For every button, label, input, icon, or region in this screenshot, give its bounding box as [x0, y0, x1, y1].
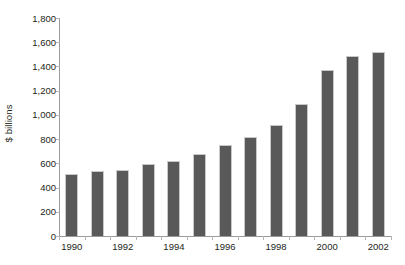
- y-axis-tick-label: 200: [14, 207, 56, 216]
- y-axis-tick-label: 1,200: [14, 86, 56, 95]
- y-axis-tick-mark: [56, 115, 60, 116]
- bar: [346, 56, 359, 236]
- bar: [193, 154, 206, 236]
- bar: [244, 137, 257, 236]
- y-axis-tick-label: 1,600: [14, 38, 56, 47]
- y-axis-tick-mark: [56, 91, 60, 92]
- x-axis-tick-mark: [110, 236, 111, 240]
- x-axis-tick-mark: [212, 236, 213, 240]
- bar-chart: $ billions 02004006008001,0001,2001,4001…: [0, 0, 405, 265]
- x-axis-tick-mark: [314, 236, 315, 240]
- y-axis-tick-label: 0: [14, 232, 56, 241]
- bar: [116, 170, 129, 236]
- y-axis-tick-label: 1,800: [14, 14, 56, 23]
- y-axis-tick-labels: 02004006008001,0001,2001,4001,6001,800: [14, 0, 56, 265]
- x-axis-tick-label: 1998: [256, 241, 296, 252]
- bar: [167, 161, 180, 236]
- x-axis-tick-label: 1992: [103, 241, 143, 252]
- y-axis-tick-mark: [56, 139, 60, 140]
- y-axis-tick-label: 400: [14, 183, 56, 192]
- x-axis-tick-mark: [161, 236, 162, 240]
- y-axis-tick-label: 800: [14, 135, 56, 144]
- bar: [91, 171, 104, 236]
- x-axis-tick-label: 1990: [52, 241, 92, 252]
- x-axis-tick-mark: [136, 236, 137, 240]
- y-axis-tick-mark: [56, 163, 60, 164]
- x-axis-tick-mark: [59, 236, 60, 240]
- y-axis-tick-label: 1,000: [14, 110, 56, 119]
- x-axis-line: [59, 236, 392, 237]
- x-axis-tick-mark: [85, 236, 86, 240]
- x-axis-tick-label: 1994: [154, 241, 194, 252]
- y-axis-label-text: $ billions: [3, 83, 14, 165]
- y-axis-tick-mark: [56, 212, 60, 213]
- x-axis-tick-mark: [263, 236, 264, 240]
- x-axis-tick-label: 2000: [307, 241, 347, 252]
- y-axis-tick-mark: [56, 66, 60, 67]
- bar: [219, 145, 232, 236]
- plot-area: [59, 18, 391, 236]
- x-axis-tick-mark: [238, 236, 239, 240]
- bar: [65, 174, 78, 236]
- x-axis-tick-mark: [340, 236, 341, 240]
- x-axis-tick-mark: [289, 236, 290, 240]
- y-axis-tick-mark: [56, 42, 60, 43]
- x-axis-tick-mark: [391, 236, 392, 240]
- x-axis-tick-mark: [187, 236, 188, 240]
- bar: [321, 70, 334, 236]
- x-axis-tick-label: 2002: [358, 241, 398, 252]
- x-axis-tick-label: 1996: [205, 241, 245, 252]
- y-axis-tick-label: 600: [14, 159, 56, 168]
- bar: [142, 164, 155, 236]
- y-axis-tick-mark: [56, 188, 60, 189]
- y-axis-tick-mark: [56, 18, 60, 19]
- x-axis-tick-labels: 1990199219941996199820002002: [59, 241, 391, 257]
- bar: [372, 52, 385, 236]
- bar: [270, 125, 283, 236]
- y-axis-tick-label: 1,400: [14, 62, 56, 71]
- bar: [295, 104, 308, 236]
- bar-series: [59, 18, 391, 236]
- x-axis-tick-mark: [365, 236, 366, 240]
